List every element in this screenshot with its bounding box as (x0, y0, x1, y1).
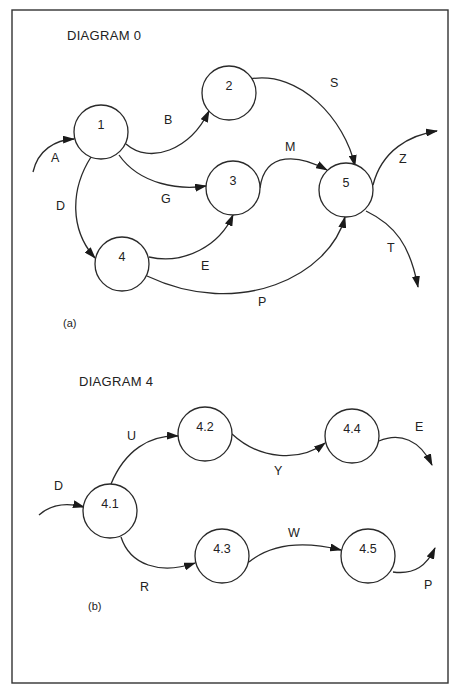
edge-a: A (33, 139, 74, 172)
edge-e: E (149, 215, 233, 273)
edge-label: R (140, 580, 149, 594)
node-4-3: 4.3 (195, 529, 249, 583)
node-1: 1 (74, 105, 128, 159)
node-5: 5 (319, 163, 373, 217)
edge-r: R (121, 537, 195, 594)
arrow-icon (149, 215, 233, 259)
arrow-icon (260, 159, 327, 188)
edge-m: M (260, 140, 327, 188)
node-4-1: 4.1 (83, 484, 137, 538)
arrow-icon (393, 548, 435, 573)
arrow-icon (111, 436, 178, 484)
edge-e: E (379, 420, 432, 465)
edge-u: U (111, 429, 178, 484)
node-label: 4.5 (359, 542, 376, 556)
arrow-icon (39, 505, 84, 515)
diagram-caption: (a) (63, 317, 76, 329)
node-circle (325, 409, 379, 463)
edge-label: A (51, 151, 60, 165)
edge-label: B (164, 113, 172, 127)
node-label: 2 (226, 79, 233, 93)
node-circle (319, 163, 373, 217)
edge-label: G (161, 192, 171, 206)
diagram-caption: (b) (88, 600, 101, 612)
edge-b: B (126, 111, 209, 154)
arrow-icon (249, 545, 341, 562)
node-label: 3 (230, 174, 237, 188)
edge-p: P (147, 217, 345, 309)
arrow-icon (379, 437, 432, 465)
arrow-icon (232, 434, 325, 456)
edge-w: W (249, 526, 341, 562)
node-circle (202, 66, 256, 120)
edge-s: S (250, 76, 355, 166)
node-circle (195, 529, 249, 583)
node-label: 4.1 (101, 497, 118, 511)
edge-label: S (330, 76, 338, 90)
node-2: 2 (202, 66, 256, 120)
diagram-title: DIAGRAM 4 (79, 374, 153, 389)
edge-p: P (393, 548, 435, 592)
edge-g: G (119, 155, 206, 206)
edge-t: T (366, 211, 418, 287)
node-label: 4.3 (213, 542, 230, 556)
edge-label: T (387, 241, 395, 255)
nodes: 12345 (74, 66, 373, 291)
edge-label: E (415, 420, 423, 434)
edge-label: P (424, 578, 432, 592)
node-circle (341, 529, 395, 583)
edge-d: D (39, 479, 84, 515)
node-circle (83, 484, 137, 538)
arrow-icon (76, 157, 95, 258)
node-label: 4.4 (343, 422, 360, 436)
diagram-title: DIAGRAM 0 (67, 28, 141, 43)
node-3: 3 (206, 161, 260, 215)
node-label: 1 (98, 118, 105, 132)
diagram-0: DIAGRAM 0ABGDESMPZT12345(a) (33, 28, 437, 329)
edge-y: Y (232, 434, 325, 478)
node-label: 4 (119, 250, 126, 264)
node-circle (95, 237, 149, 291)
node-4-4: 4.4 (325, 409, 379, 463)
node-circle (178, 407, 232, 461)
node-4-5: 4.5 (341, 529, 395, 583)
diagram-canvas: DIAGRAM 0ABGDESMPZT12345(a)DIAGRAM 4DURY… (0, 0, 455, 690)
arrow-icon (119, 155, 206, 187)
diagram-4: DIAGRAM 4DURYWEP4.14.24.34.44.5(b) (39, 374, 435, 612)
arrow-icon (121, 537, 195, 568)
node-4: 4 (95, 237, 149, 291)
diagrams-layer: DIAGRAM 0ABGDESMPZT12345(a)DIAGRAM 4DURY… (33, 28, 437, 612)
node-label: 5 (343, 176, 350, 190)
arrow-icon (250, 78, 355, 166)
edge-label: W (288, 526, 300, 540)
edge-label: Z (399, 152, 407, 166)
node-label: 4.2 (196, 420, 213, 434)
edge-label: M (285, 140, 295, 154)
node-4-2: 4.2 (178, 407, 232, 461)
edge-label: D (54, 479, 63, 493)
node-circle (74, 105, 128, 159)
node-circle (206, 161, 260, 215)
edge-label: U (127, 429, 136, 443)
edge-label: D (56, 199, 65, 213)
edge-d: D (56, 157, 95, 258)
edge-z: Z (373, 131, 437, 185)
edge-label: Y (274, 464, 283, 478)
edge-label: P (258, 295, 266, 309)
edge-label: E (201, 259, 209, 273)
arrow-icon (147, 217, 345, 294)
